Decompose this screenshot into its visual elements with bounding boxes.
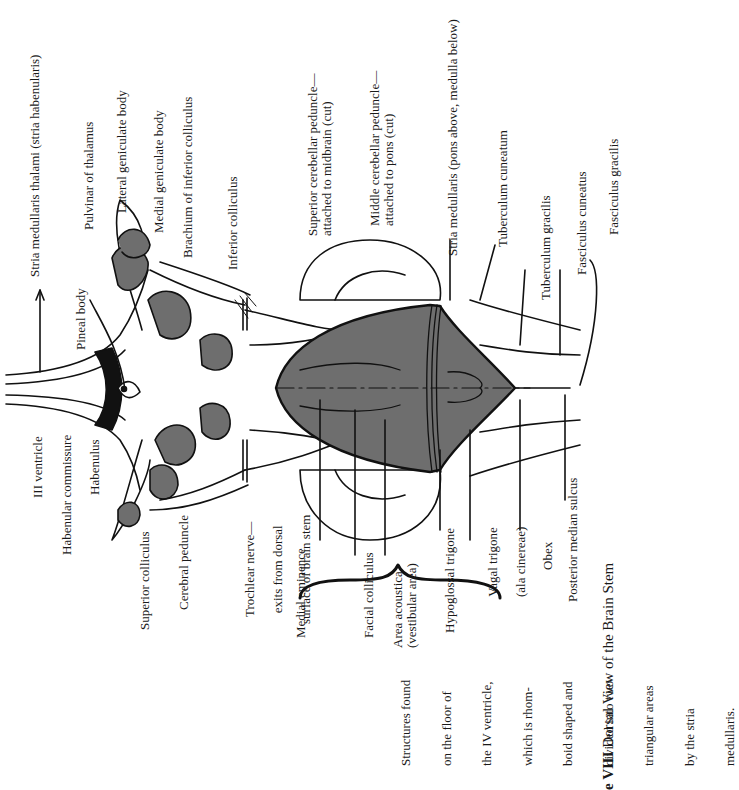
label-line: Vagal trigone bbox=[485, 527, 500, 597]
label-line: (vestibular area) bbox=[404, 563, 419, 648]
label-line: (ala cinereae) bbox=[513, 527, 528, 597]
note-line: medullaris. bbox=[723, 680, 737, 766]
label-facial-colliculus: Facial colliculus bbox=[362, 552, 376, 638]
note-line: boid shaped and bbox=[561, 680, 575, 766]
label-vagal-trigone: Vagal trigone (ala cinereae) bbox=[472, 527, 542, 610]
label-fasciculus-gracilis: Fasciculus gracilis bbox=[607, 139, 621, 235]
label-obex: Obex bbox=[541, 542, 555, 570]
label-cerebral-peduncle: Cerebral peduncle bbox=[177, 515, 191, 610]
label-stria-medullaris-thalami: Stria medullaris thalami (stria habenula… bbox=[28, 55, 42, 277]
label-medial-eminence: Medial eminence bbox=[294, 548, 308, 638]
label-tuberculum-cuneatum: Tuberculum cuneatum bbox=[496, 130, 510, 247]
label-habenular-commissure: Habenular commissure bbox=[60, 435, 74, 555]
label-middle-cerebellar-peduncle: Middle cerebellar peduncle— attached to … bbox=[368, 71, 396, 226]
label-superior-colliculus: Superior colliculus bbox=[138, 531, 152, 630]
note-line: which is rhom- bbox=[521, 680, 535, 766]
label-medial-geniculate-body: Medial geniculate body bbox=[152, 110, 166, 233]
label-line: Superior cerebellar peduncle— bbox=[305, 74, 320, 236]
label-line: Trochlear nerve— bbox=[242, 522, 257, 617]
ventricle-floor-note: Structures found on the floor of the IV … bbox=[372, 680, 739, 766]
note-line: the IV ventricle, bbox=[480, 680, 494, 766]
label-superior-cerebellar-peduncle: Superior cerebellar peduncle— attached t… bbox=[306, 74, 334, 236]
note-line: on the floor of bbox=[440, 680, 454, 766]
caption-number: e VIII bbox=[600, 752, 616, 790]
label-iii-ventricle: III ventricle bbox=[31, 436, 45, 498]
label-brachium-inferior-colliculus: Brachium of inferior colliculus bbox=[181, 97, 195, 258]
label-area-acoustica: Area acoustica (vestibular area) bbox=[391, 563, 419, 648]
label-hypoglossal-trigone: Hypoglossal trigone bbox=[443, 528, 457, 633]
note-line: triangular areas bbox=[642, 680, 656, 766]
label-trochlear-nerve: Trochlear nerve— exits from dorsal surfa… bbox=[229, 515, 327, 637]
label-stria-medullaris: Stria medullaris (pons above, medulla be… bbox=[446, 19, 460, 256]
label-lateral-geniculate-body: Lateral geniculate body bbox=[115, 90, 129, 213]
label-pineal-body: Pineal body bbox=[74, 288, 88, 350]
caption-title: Dorsal View of the Brain Stem bbox=[600, 563, 616, 748]
label-habenulus: Habenulus bbox=[88, 439, 102, 495]
note-line: by the stria bbox=[683, 680, 697, 766]
label-pulvinar-of-thalamus: Pulvinar of thalamus bbox=[82, 122, 96, 230]
label-tuberculum-gracilis: Tuberculum gracilis bbox=[539, 195, 553, 300]
label-fasciculus-cuneatus: Fasciculus cuneatus bbox=[575, 171, 589, 275]
label-inferior-colliculus: Inferior colliculus bbox=[226, 177, 240, 271]
label-line: Area acoustica bbox=[390, 571, 405, 648]
note-line: Structures found bbox=[399, 680, 413, 766]
label-line: attached to pons (cut) bbox=[381, 114, 396, 226]
label-line: exits from dorsal bbox=[270, 525, 285, 613]
label-line: Middle cerebellar peduncle— bbox=[367, 71, 382, 226]
label-posterior-median-sulcus: Posterior median sulcus bbox=[566, 478, 580, 602]
figure-caption: e VIII Dorsal View of the Brain Stem bbox=[600, 563, 617, 790]
label-line: attached to midbrain (cut) bbox=[319, 101, 334, 236]
